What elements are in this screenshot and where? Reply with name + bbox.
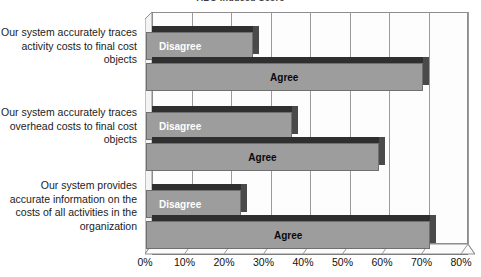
x-tick-label: 40% <box>292 256 313 268</box>
bar-value-label: Agree <box>274 230 302 241</box>
bar-body: Agree <box>146 221 430 249</box>
gridline <box>310 12 311 244</box>
bar-disagree: Disagree <box>146 32 253 60</box>
category-label: Our system accurately traces activity co… <box>0 26 137 67</box>
x-axis-line <box>152 254 468 255</box>
bar-side-face <box>241 184 247 212</box>
bar-body: Disagree <box>146 190 241 218</box>
bar-agree: Agree <box>146 143 379 171</box>
x-tick-label: 70% <box>411 256 432 268</box>
bar-body: Agree <box>146 143 379 171</box>
bar-value-label: Disagree <box>159 121 201 132</box>
bar-value-label: Disagree <box>159 41 201 52</box>
x-tick-label: 30% <box>253 256 274 268</box>
x-tick-label: 10% <box>174 256 195 268</box>
bar-body: Agree <box>146 63 423 91</box>
chart-title: ABC-Induced Score <box>0 0 481 2</box>
x-axis-ticks: 0%10%20%30%40%50%60%70%80% <box>145 256 481 272</box>
bar-value-label: Agree <box>248 152 276 163</box>
bar-body: Disagree <box>146 32 253 60</box>
category-label: Our system accurately traces overhead co… <box>0 106 137 147</box>
x-tick-label: 60% <box>371 256 392 268</box>
x-tick-label: 80% <box>450 256 471 268</box>
bar-side-face <box>423 57 429 85</box>
category-axis-labels: Our system accurately traces activity co… <box>0 14 143 252</box>
bar-agree: Agree <box>146 63 423 91</box>
category-label: Our system provides accurate information… <box>0 179 137 233</box>
bar-agree: Agree <box>146 221 430 249</box>
bar-disagree: Disagree <box>146 190 241 218</box>
gridline <box>468 12 469 244</box>
gridline <box>389 12 390 244</box>
bar-value-label: Agree <box>270 72 298 83</box>
bar-side-face <box>253 26 259 54</box>
gridline <box>350 12 351 244</box>
bar-side-face <box>430 215 436 243</box>
bar-disagree: Disagree <box>146 112 292 140</box>
bar-side-face <box>292 106 298 134</box>
x-tick-label: 20% <box>213 256 234 268</box>
plot-area: DisagreeAgreeDisagreeAgreeDisagreeAgree <box>145 12 475 255</box>
bar-body: Disagree <box>146 112 292 140</box>
bar-value-label: Disagree <box>159 199 201 210</box>
bar-side-face <box>379 137 385 165</box>
bar-chart: ABC-Induced Score Our system accurately … <box>0 0 481 277</box>
x-tick-label: 0% <box>137 256 152 268</box>
x-tick-label: 50% <box>332 256 353 268</box>
gridline <box>429 12 430 244</box>
